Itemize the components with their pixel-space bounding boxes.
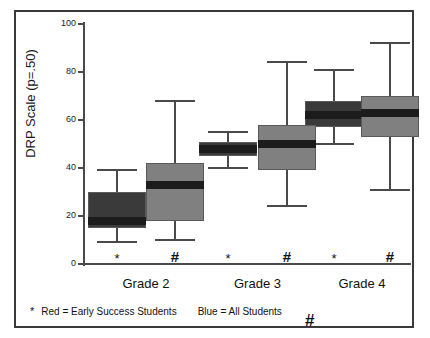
y-tick-label-60: 60 (36, 115, 76, 124)
group-label-grade-3: Grade 3 (208, 277, 308, 291)
box-rect (146, 163, 204, 221)
upper-whisker (227, 132, 229, 142)
y-tick-40 (78, 167, 83, 169)
upper-cap (314, 69, 354, 71)
group-label-grade-2: Grade 2 (96, 277, 196, 291)
lower-cap (370, 189, 410, 191)
lower-whisker (333, 127, 335, 144)
y-tick-label-0: 0 (36, 259, 76, 268)
legend-red-label: Red = Early Success Students (41, 306, 176, 317)
upper-whisker (116, 170, 118, 192)
y-tick-60 (78, 119, 83, 121)
median-line (88, 217, 146, 225)
y-axis-title: DRP Scale (p=.50) (23, 4, 38, 204)
upper-whisker (286, 62, 288, 124)
legend-star-icon: * (30, 306, 34, 317)
median-line (258, 140, 316, 148)
lower-cap (97, 241, 137, 243)
marker-star-grade-2: * (102, 252, 132, 265)
upper-whisker (174, 101, 176, 163)
upper-whisker (389, 43, 391, 96)
group-label-grade-4: Grade 4 (312, 277, 412, 291)
lower-cap (314, 143, 354, 145)
upper-cap (208, 131, 248, 133)
y-tick-0 (78, 263, 83, 265)
upper-cap (97, 169, 137, 171)
legend-hash-icon: # (305, 312, 314, 329)
boxplot-figure: DRP Scale (p=.50) 100806040200 ***### Gr… (0, 0, 430, 338)
upper-cap (370, 42, 410, 44)
y-tick-80 (78, 71, 83, 73)
lower-whisker (116, 228, 118, 242)
legend-blue-label: Blue = All Students (198, 306, 282, 317)
upper-cap (267, 61, 307, 63)
marker-hash-grade-2: # (160, 250, 190, 263)
marker-star-grade-4: * (319, 252, 349, 265)
lower-cap (208, 167, 248, 169)
median-line (361, 109, 419, 117)
upper-whisker (333, 70, 335, 101)
marker-hash-grade-4: # (375, 250, 405, 263)
y-tick-label-100: 100 (36, 19, 76, 28)
lower-cap (267, 205, 307, 207)
y-tick-20 (78, 215, 83, 217)
y-tick-label-80: 80 (36, 67, 76, 76)
y-tick-label-40: 40 (36, 163, 76, 172)
median-line (199, 145, 257, 153)
lower-whisker (389, 137, 391, 190)
y-tick-label-20: 20 (36, 211, 76, 220)
marker-star-grade-3: * (213, 252, 243, 265)
lower-whisker (286, 170, 288, 206)
y-tick-100 (78, 23, 83, 25)
lower-whisker (174, 221, 176, 240)
lower-cap (155, 239, 195, 241)
median-line (146, 181, 204, 189)
legend: * Red = Early Success Students Blue = Al… (30, 303, 370, 319)
y-axis-line (83, 22, 85, 266)
marker-hash-grade-3: # (272, 250, 302, 263)
upper-cap (155, 100, 195, 102)
